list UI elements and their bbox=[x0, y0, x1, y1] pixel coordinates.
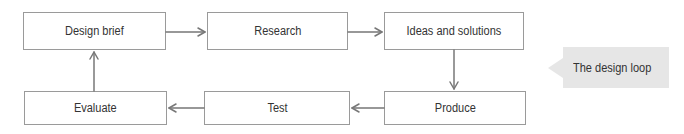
arrow-ideas-to-produce bbox=[450, 50, 458, 89]
arrow-brief-to-research bbox=[166, 28, 205, 36]
arrow-produce-to-test bbox=[352, 104, 384, 112]
arrow-test-to-evaluate bbox=[169, 104, 204, 112]
callout-text: The design loop bbox=[573, 61, 651, 75]
arrow-research-to-ideas bbox=[348, 28, 382, 36]
callout-pointer bbox=[548, 58, 563, 78]
arrow-evaluate-to-brief bbox=[90, 52, 98, 91]
callout-label: The design loop bbox=[563, 47, 669, 88]
